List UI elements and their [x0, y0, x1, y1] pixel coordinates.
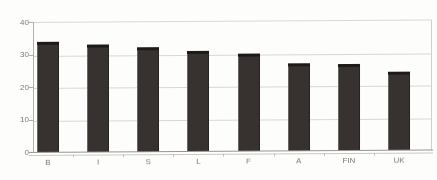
- bar: [388, 72, 410, 150]
- bar: [238, 53, 260, 150]
- y-tick-label: 30: [2, 49, 29, 60]
- bar-top-face: [338, 64, 360, 67]
- chart-stage: 010203040BISLFAFINUK: [0, 0, 437, 180]
- x-axis-label: L: [183, 156, 213, 167]
- bar-top-face: [238, 53, 260, 56]
- y-axis-tick: [29, 22, 33, 23]
- bar-top-face: [137, 47, 159, 50]
- x-axis-tick: [274, 153, 275, 156]
- y-tick-label: 40: [2, 16, 29, 27]
- x-axis-label: UK: [384, 155, 414, 166]
- bar: [288, 63, 310, 151]
- bar: [338, 64, 360, 150]
- y-tick-label: 20: [2, 81, 29, 92]
- x-axis-tick: [73, 155, 74, 158]
- bar: [37, 42, 59, 152]
- x-axis-tick: [374, 153, 375, 156]
- y-tick-label: 10: [2, 114, 29, 125]
- x-axis-label: S: [133, 156, 163, 167]
- bar: [137, 47, 159, 151]
- bar: [87, 44, 109, 151]
- bar: [187, 50, 209, 151]
- y-axis-tick: [29, 119, 33, 120]
- bar-top-face: [37, 42, 59, 45]
- bar-chart-figure: 010203040BISLFAFINUK: [0, 0, 437, 180]
- x-axis-tick: [324, 153, 325, 156]
- bar-top-face: [87, 44, 109, 47]
- x-axis-tick: [123, 154, 124, 157]
- x-axis-tick: [173, 154, 174, 157]
- x-axis-label: B: [33, 157, 63, 168]
- bar-top-face: [388, 72, 410, 75]
- x-axis-tick: [223, 154, 224, 157]
- y-axis-tick: [29, 54, 33, 55]
- y-tick-label: 0: [2, 146, 29, 157]
- y-axis-tick: [29, 87, 33, 88]
- bar-top-face: [288, 63, 310, 66]
- x-axis-label: A: [284, 155, 314, 166]
- x-axis-label: FIN: [334, 155, 364, 166]
- bar-top-face: [187, 50, 209, 53]
- x-axis-label: F: [234, 156, 264, 167]
- x-axis-label: I: [83, 156, 113, 167]
